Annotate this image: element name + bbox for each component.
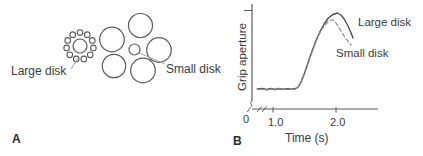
x-tick-label-2: 2.0 bbox=[330, 116, 345, 128]
left-surround-circle bbox=[87, 52, 93, 58]
x-tick-label-1: 1.0 bbox=[268, 116, 283, 128]
left-surround-circle bbox=[64, 45, 70, 51]
right-surround-circle bbox=[131, 58, 156, 83]
right-center-disk bbox=[129, 44, 140, 55]
panel-b-letter: B bbox=[233, 134, 242, 148]
left-surround-circle bbox=[70, 32, 76, 38]
right-surround-circle bbox=[129, 14, 153, 38]
large-disk-series-label: Large disk bbox=[358, 16, 411, 29]
panel-a-letter: A bbox=[12, 132, 21, 146]
right-surround-circle bbox=[147, 38, 172, 63]
large-disk-label-panel-a: Large disk bbox=[11, 65, 66, 78]
x-tick-label-0: 0 bbox=[243, 113, 249, 125]
right-surround-circle bbox=[100, 27, 125, 52]
x-axis-label: Time (s) bbox=[285, 132, 329, 145]
y-axis-break-squiggle bbox=[247, 101, 252, 112]
left-center-disk bbox=[73, 39, 87, 53]
right-surround-circle bbox=[102, 54, 125, 77]
panel-a-illusion bbox=[64, 14, 171, 83]
ebbinghaus-grip-figure: Large disk Small disk A Grip aperture Ti… bbox=[0, 0, 423, 156]
left-surround-circle bbox=[85, 32, 91, 38]
small-disk-series-label: Small disk bbox=[336, 47, 388, 60]
left-surround-circle bbox=[65, 38, 71, 44]
large-disk-pointer-line bbox=[71, 58, 78, 69]
left-surround-circle bbox=[91, 45, 97, 51]
left-surround-circle bbox=[77, 30, 83, 36]
left-surround-circle bbox=[89, 38, 95, 44]
small-disk-label-panel-a: Small disk bbox=[166, 63, 221, 76]
y-axis-label: Grip aperture bbox=[236, 23, 248, 91]
left-surround-circle bbox=[81, 56, 87, 62]
left-surround-circle bbox=[67, 52, 73, 58]
